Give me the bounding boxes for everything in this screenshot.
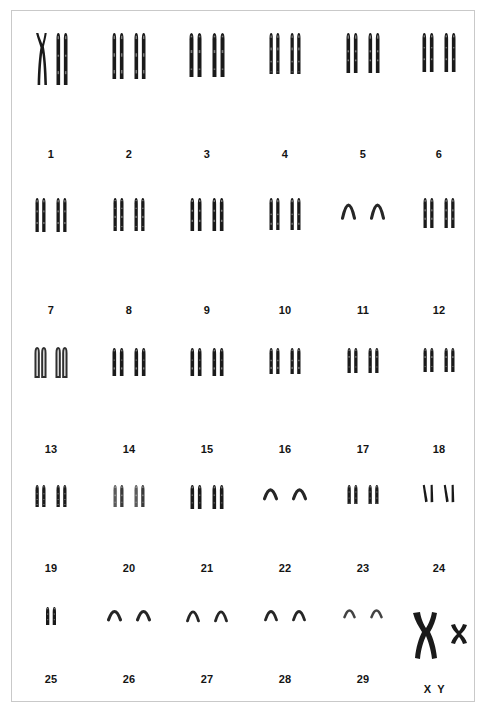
chromosome-pair-6[interactable]: 6 (402, 29, 476, 78)
chromosome-pair-26[interactable]: 26 (90, 603, 168, 627)
chromosome-pair-19[interactable]: 19 (12, 481, 90, 513)
chromosome-number-label: 13 (12, 443, 90, 455)
homolog-group (110, 481, 149, 511)
chromosome-pair-4[interactable]: 4 (246, 29, 324, 80)
chromosome-glyph (441, 481, 459, 506)
chromosome-pair-image (324, 29, 402, 79)
chromosome-glyph (441, 194, 459, 232)
homolog-group (339, 194, 388, 224)
chromosome-glyph (209, 344, 228, 380)
homolog-group (266, 29, 305, 78)
homolog-group (187, 194, 228, 235)
chromosome-pair-22[interactable]: 22 (246, 481, 324, 506)
chromosome-pair-image (90, 603, 168, 627)
homolog-group (186, 29, 229, 81)
homolog-group (266, 344, 305, 378)
chromosome-pair-image (324, 344, 402, 379)
chromosome-number-label: 20 (90, 562, 168, 574)
homolog-group (184, 603, 231, 626)
chromosome-pair-15[interactable]: 15 (168, 344, 246, 382)
chromosome-pair-image (402, 481, 476, 508)
chromosome-glyph (109, 29, 128, 83)
chromosome-glyph (290, 481, 310, 504)
chromosome-number-label: 2 (90, 148, 168, 160)
chromosome-number-label: 28 (246, 673, 324, 685)
chromosome-pair-13[interactable]: 13 (12, 344, 90, 383)
chromosome-pair-8[interactable]: 8 (90, 194, 168, 237)
chromosome-number-label: 10 (246, 304, 324, 316)
chromosome-pair-3[interactable]: 3 (168, 29, 246, 83)
chromosome-glyph (209, 194, 228, 235)
homolog-group (187, 481, 228, 513)
chromosome-glyph (339, 194, 359, 224)
chromosome-pair-14[interactable]: 14 (90, 344, 168, 382)
sex-chromosome-label: X Y (394, 683, 476, 695)
homolog-group (419, 29, 460, 76)
chromosome-pair-1[interactable]: 1 (12, 29, 90, 91)
chromosome-pair-image (168, 481, 246, 515)
chromosome-glyph (343, 29, 362, 77)
chromosome-number-label: 21 (168, 562, 246, 574)
chromosome-glyph (187, 344, 206, 380)
chromosome-pair-image (324, 194, 402, 226)
chromosome-pair-7[interactable]: 7 (12, 194, 90, 238)
chromosome-pair-28[interactable]: 28 (246, 603, 324, 627)
chromosome-pair-image (402, 344, 476, 378)
homolog-group (420, 481, 459, 506)
chromosome-pair-image (12, 603, 90, 631)
chromosome-glyph (368, 603, 386, 622)
chromosome-glyph (266, 29, 284, 78)
chromosome-glyph (368, 194, 388, 224)
chromosome-pair-11[interactable]: 11 (324, 194, 402, 226)
chromosome-glyph (287, 29, 305, 78)
chromosome-glyph (32, 194, 50, 236)
homolog-group (420, 194, 459, 232)
homolog-group (344, 481, 383, 508)
chromosome-pair-29[interactable]: 29 (324, 603, 402, 624)
chromosome-pair-18[interactable]: 18 (402, 344, 476, 378)
chromosome-glyph (131, 29, 150, 83)
chromosome-pair-12[interactable]: 12 (402, 194, 476, 234)
sex-chromosome-image (399, 611, 471, 675)
chromosome-glyph (184, 603, 203, 626)
chromosome-glyph (53, 481, 71, 511)
chromosome-number-label: 14 (90, 443, 168, 455)
homolog-group (266, 194, 305, 234)
chromosome-pair-16[interactable]: 16 (246, 344, 324, 380)
chromosome-glyph (109, 344, 128, 380)
homolog-group (110, 194, 149, 235)
homolog-group (32, 481, 71, 511)
sex-chromosome-cell: X Y (394, 611, 476, 679)
chromosome-pair-image (90, 344, 168, 382)
chromosome-pair-5[interactable]: 5 (324, 29, 402, 79)
chromosome-number-label: 17 (324, 443, 402, 455)
chromosome-glyph (186, 29, 206, 81)
chromosome-glyph (266, 194, 284, 234)
chromosome-glyph (420, 344, 438, 376)
chromosome-pair-9[interactable]: 9 (168, 194, 246, 237)
chromosome-glyph (365, 344, 383, 377)
chromosome-pair-17[interactable]: 17 (324, 344, 402, 379)
chromosome-pair-image (246, 344, 324, 380)
chromosome-pair-24[interactable]: 24 (402, 481, 476, 508)
chromosome-pair-23[interactable]: 23 (324, 481, 402, 510)
chromosome-glyph (32, 344, 50, 381)
chromosome-glyph (261, 481, 281, 504)
chromosome-glyph (287, 194, 305, 234)
chromosome-pair-image (12, 194, 90, 238)
chromosome-pair-21[interactable]: 21 (168, 481, 246, 515)
chromosome-glyph (344, 344, 362, 377)
chromosome-pair-27[interactable]: 27 (168, 603, 246, 628)
chromosome-glyph (131, 194, 149, 235)
chromosome-number-label: 19 (12, 562, 90, 574)
chromosome-number-label: 22 (246, 562, 324, 574)
chromosome-glyph (110, 194, 128, 235)
chromosome-pair-10[interactable]: 10 (246, 194, 324, 236)
chromosome-number-label: 26 (90, 673, 168, 685)
chromosome-pair-25[interactable]: 25 (12, 603, 90, 631)
chromosome-glyph (42, 603, 60, 629)
chromosome-pair-image (168, 194, 246, 237)
chromosome-glyph (287, 344, 305, 378)
chromosome-pair-20[interactable]: 20 (90, 481, 168, 513)
chromosome-pair-2[interactable]: 2 (90, 29, 168, 85)
